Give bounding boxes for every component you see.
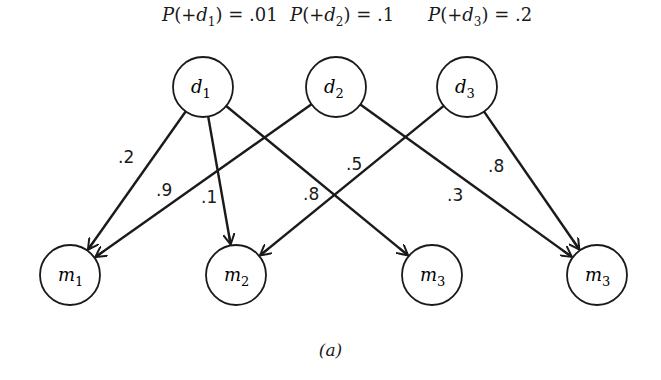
node-m3b: m3 <box>567 245 627 305</box>
nodes: d1d2d3m1m2m3m3 <box>40 57 627 305</box>
edge-label-d3-m3b: .8 <box>488 156 504 176</box>
edge-label-d1-m2: .1 <box>201 187 217 207</box>
edge-label-d2-m3b: .3 <box>447 185 463 205</box>
edge-label-d1-m3a: .8 <box>303 184 319 204</box>
edge-d2-m1 <box>95 104 311 257</box>
edge-d2-m3b <box>360 105 572 257</box>
bayesian-network-graph: .2.1.8.9.3.5.8 d1d2d3m1m2m3m3 <box>0 0 661 380</box>
edge-d1-m2 <box>208 117 230 245</box>
edge-d1-m3a <box>226 106 408 255</box>
node-d3: d3 <box>437 57 497 117</box>
node-d1: d1 <box>173 57 233 117</box>
node-m1: m1 <box>40 245 100 305</box>
node-d2: d2 <box>306 57 366 117</box>
node-m2: m2 <box>206 245 266 305</box>
edge-label-d2-m1: .9 <box>156 180 172 200</box>
node-m3a: m3 <box>402 245 462 305</box>
edge-label-d3-m2: .5 <box>346 154 362 174</box>
edges: .2.1.8.9.3.5.8 <box>88 104 579 257</box>
edge-d3-m2 <box>260 106 444 255</box>
edge-label-d1-m1: .2 <box>118 147 134 167</box>
figure-caption: (a) <box>0 340 661 360</box>
